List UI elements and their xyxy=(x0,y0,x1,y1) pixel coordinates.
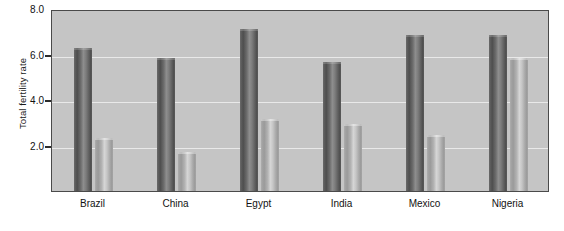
bar-top-highlight xyxy=(427,135,445,137)
bar xyxy=(427,135,445,191)
y-tick-label: 4.0 xyxy=(0,96,44,106)
bar-top-highlight xyxy=(510,58,528,60)
bar-top-highlight xyxy=(344,124,362,126)
bar xyxy=(157,58,175,191)
bar xyxy=(406,35,424,191)
y-tick-label: 6.0 xyxy=(0,51,44,61)
y-tick-label: 8.0 xyxy=(0,5,44,15)
fertility-rate-bar-chart: Total fertility rate 2.04.06.08.0 Brazil… xyxy=(0,0,564,231)
bar-top-highlight xyxy=(323,62,341,64)
bar-top-highlight xyxy=(157,58,175,60)
bar-top-highlight xyxy=(406,35,424,37)
gridline xyxy=(52,148,548,149)
bar xyxy=(489,35,507,191)
y-axis-tick-labels: 2.04.06.08.0 xyxy=(0,0,44,231)
gridline xyxy=(52,102,548,103)
bar xyxy=(178,152,196,191)
x-tick-label: Nigeria xyxy=(458,198,558,209)
bar xyxy=(344,124,362,191)
bar xyxy=(240,29,258,191)
bar-top-highlight xyxy=(74,48,92,50)
gridline xyxy=(52,57,548,58)
bar-top-highlight xyxy=(489,35,507,37)
bar xyxy=(95,138,113,191)
bar xyxy=(510,58,528,191)
bar-top-highlight xyxy=(95,138,113,140)
plot-area xyxy=(51,10,549,192)
bar-top-highlight xyxy=(261,119,279,121)
bar-top-highlight xyxy=(178,152,196,154)
bar xyxy=(74,48,92,191)
bar-top-highlight xyxy=(240,29,258,31)
bar xyxy=(323,62,341,191)
y-tick-label: 2.0 xyxy=(0,142,44,152)
bar xyxy=(261,119,279,191)
